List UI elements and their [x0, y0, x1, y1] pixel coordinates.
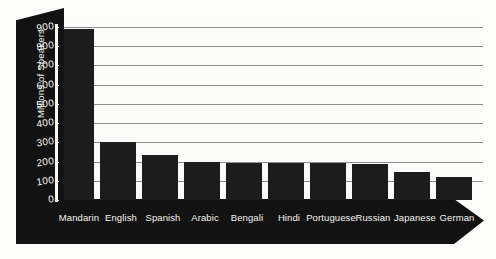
x-label-german: German — [422, 212, 492, 223]
bar-chart-figure: Millions of Speakers 0100200300400500600… — [0, 0, 496, 259]
bar-spanish — [142, 155, 178, 200]
bar-japanese — [394, 172, 430, 200]
axis-rail — [55, 24, 58, 202]
bar-portuguese — [310, 163, 346, 200]
bar-hindi — [268, 163, 304, 200]
bar-bengali — [226, 163, 262, 200]
bar-russian — [352, 164, 388, 200]
bar-english — [100, 142, 136, 200]
bar-german — [436, 177, 472, 200]
bar-arabic — [184, 162, 220, 200]
x-axis-category-labels: MandarinEnglishSpanishArabicBengaliHindi… — [0, 212, 496, 234]
